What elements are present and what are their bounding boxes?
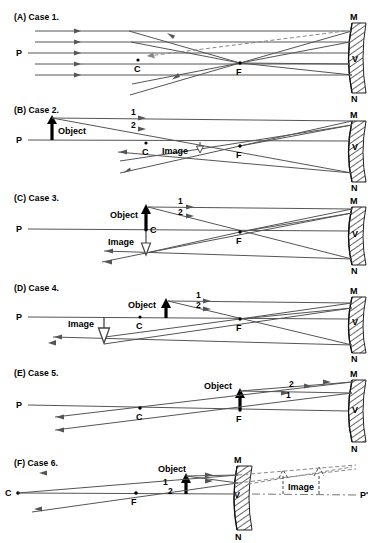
case2-ray2-arrowhead — [138, 127, 146, 132]
case6-diagram: M V N P' C F Object 1 — [0, 450, 379, 543]
case5-principal-axis — [28, 405, 348, 411]
case3-label-c: C — [150, 225, 157, 235]
case2-image-label: Image — [162, 146, 188, 156]
case5-axis-label-p: P — [16, 400, 22, 410]
case2-image-arrow — [197, 142, 204, 153]
case3-image-label: Image — [108, 237, 134, 247]
case2-point-f — [238, 144, 241, 147]
case3-ray-label-1: 1 — [178, 196, 183, 206]
case1-label-f: F — [236, 67, 242, 77]
case5-label-c: C — [136, 412, 143, 422]
case4-point-f — [238, 317, 241, 320]
case5-mirror-label-v: V — [352, 405, 358, 415]
case4-ray-label-1: 1 — [196, 290, 201, 300]
case1-point-c — [136, 58, 139, 61]
case4-reflected-arrowheads — [48, 335, 62, 346]
case2-diagram: M V N P Object 1 — [0, 95, 379, 185]
case6-mirror-label-m: M — [234, 455, 242, 465]
case5-point-c — [138, 406, 141, 409]
case3-mirror-label-m: M — [350, 196, 358, 206]
panel-case3: (C) Case 3. M V N P Object — [0, 185, 379, 275]
case5-label-f: F — [236, 414, 242, 424]
case1-label-c: C — [134, 64, 141, 74]
case3-object-label: Object — [110, 210, 138, 220]
case6-axis-label-p-prime: P' — [360, 490, 368, 500]
case2-mirror-label-m: M — [350, 110, 358, 120]
case1-reflected-arrowheads — [167, 33, 180, 80]
case4-image-label: Image — [68, 319, 94, 329]
case6-principal-axis-extended — [252, 494, 356, 495]
case2-label-c: C — [142, 147, 149, 157]
case4-ray-label-2: 2 — [196, 300, 201, 310]
panel-case6: (F) Case 6. M V N P' C F Object — [0, 450, 379, 543]
case3-point-f — [238, 230, 241, 233]
case3-ray1-arrowhead — [186, 205, 194, 210]
case2-ray-label-2: 2 — [131, 120, 136, 130]
case4-label-f: F — [236, 323, 242, 333]
case3-mirror-label-v: V — [352, 229, 358, 239]
case2-mirror-label-v: V — [352, 142, 358, 152]
case6-ray1 — [18, 475, 238, 493]
case5-ray2-arrowhead — [304, 384, 312, 389]
case3-axis-label-p: P — [16, 224, 22, 234]
panel-case1: (A) Case 1. M V N — [0, 0, 379, 95]
case6-principal-axis — [18, 493, 236, 494]
case6-label-c: C — [5, 488, 12, 498]
case2-ray1-arrowhead — [138, 116, 146, 121]
case3-diagram: M V N P Object 1 2 — [0, 185, 379, 275]
case6-ray-label-2: 2 — [168, 486, 173, 496]
case1-construction-line — [148, 31, 345, 56]
case2-ray-label-1: 1 — [131, 107, 136, 117]
case2-point-c — [144, 141, 147, 144]
case4-image-arrow — [99, 317, 110, 343]
case3-ray-label-2: 2 — [178, 207, 183, 217]
case5-ray-label-2: 2 — [289, 379, 294, 389]
case4-reflected-rays — [53, 308, 352, 345]
case4-object-label: Object — [128, 300, 156, 310]
case4-ray1-arrowhead — [203, 299, 211, 304]
panel-case4: (D) Case 4. M V N P Object 1 — [0, 275, 379, 363]
case4-mirror-label-v: V — [352, 317, 358, 327]
case4-diagram: M V N P Object 1 2 — [0, 275, 379, 363]
case2-object-label: Object — [58, 126, 86, 136]
case5-diagram: M V N P Object 1 2 — [0, 360, 379, 450]
case6-point-f — [134, 491, 138, 495]
panel-case5: (E) Case 5. M V N P Object 1 — [0, 360, 379, 450]
figure-concave-mirror-cases: (A) Case 1. M V N — [0, 0, 379, 543]
case3-reflected-rays — [102, 213, 352, 262]
panel-case2: (B) Case 2. M V N P Object — [0, 95, 379, 185]
case4-axis-label-p: P — [16, 312, 22, 322]
case3-label-f: F — [236, 236, 242, 246]
case3-principal-axis — [28, 229, 348, 231]
case6-object-label: Object — [158, 464, 186, 474]
case1-diagram: M V N P — [0, 0, 379, 95]
case2-principal-axis — [28, 140, 348, 141]
case1-mirror-label-v: V — [352, 54, 358, 64]
case5-object-label: Object — [204, 381, 232, 391]
case5-ray-label-1: 1 — [286, 390, 291, 400]
case5-mirror-label-m: M — [350, 369, 358, 379]
case1-mirror-label-m: M — [350, 12, 358, 22]
case1-incident-arrowheads — [74, 29, 81, 78]
case2-axis-label-p: P — [16, 135, 22, 145]
case1-point-f — [238, 61, 241, 64]
case4-mirror-label-m: M — [350, 286, 358, 296]
case3-reflected-arrowheads — [104, 249, 113, 265]
case6-mirror-label-v: V — [234, 490, 240, 500]
case6-image-label: Image — [288, 482, 314, 492]
case4-point-c — [138, 315, 141, 318]
case6-mirror-label-n: N — [235, 532, 242, 542]
case6-label-f: F — [131, 497, 137, 507]
case2-label-f: F — [236, 150, 242, 160]
case4-label-c: C — [136, 321, 143, 331]
case5-point-f — [238, 408, 241, 411]
case1-axis-label-p: P — [16, 48, 22, 58]
